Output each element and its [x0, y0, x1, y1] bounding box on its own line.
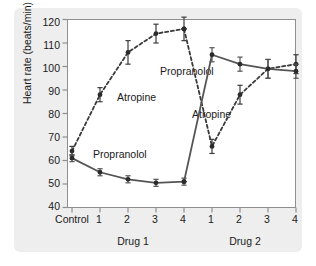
data-point-marker	[238, 92, 243, 97]
data-point-marker	[210, 52, 215, 57]
data-point-marker	[126, 177, 131, 182]
data-point-marker	[98, 170, 103, 175]
data-point-marker	[98, 92, 103, 97]
data-point-marker	[182, 179, 187, 184]
data-point-marker	[182, 27, 187, 32]
data-point-marker	[210, 144, 215, 149]
series-line	[184, 55, 296, 182]
data-point-marker	[266, 66, 271, 71]
data-point-marker	[238, 62, 243, 67]
data-point-marker	[154, 180, 159, 185]
chart-canvas	[0, 0, 316, 266]
data-series-layer	[69, 17, 298, 186]
chart-figure: Heart rate (beats/min) 120 110 100 90 80…	[0, 0, 316, 266]
data-point-marker	[70, 149, 75, 154]
data-point-marker	[154, 31, 159, 36]
data-point-marker	[126, 50, 131, 55]
data-point-marker	[294, 69, 299, 74]
data-point-marker	[70, 156, 75, 161]
axis-ticks	[63, 20, 297, 213]
